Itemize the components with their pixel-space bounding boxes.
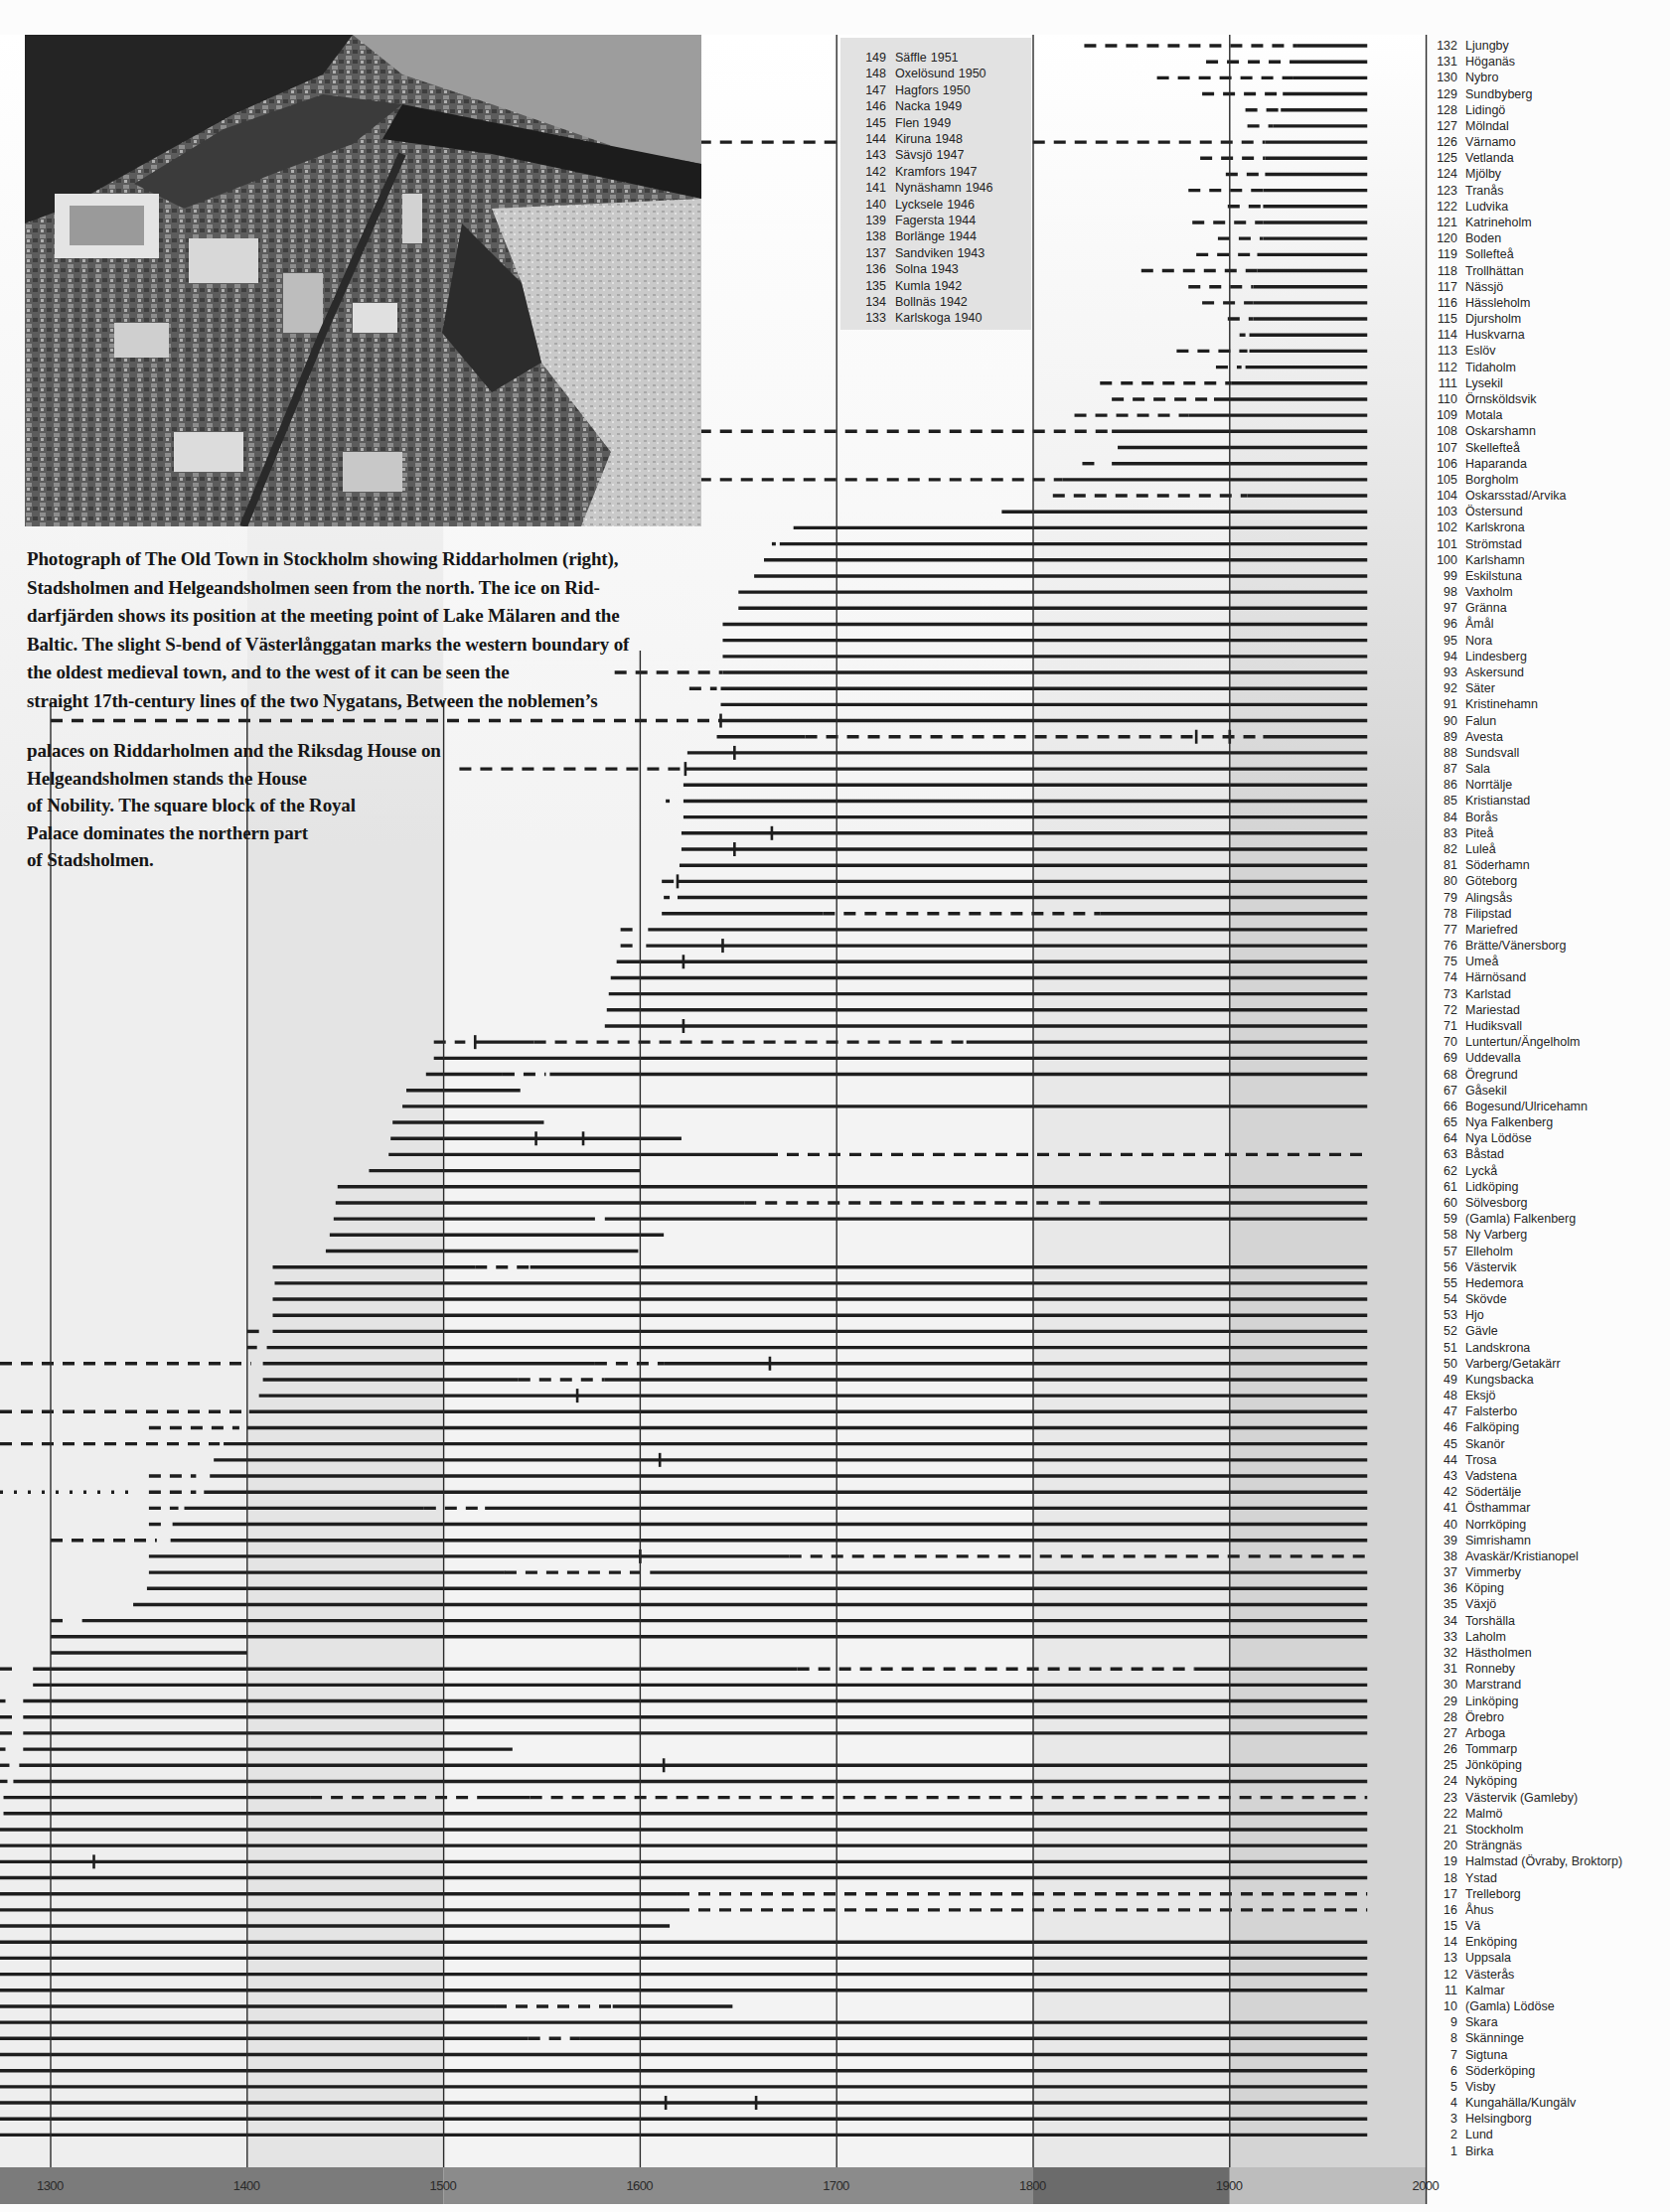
town-number: 12 (1431, 1967, 1457, 1983)
legend-town-name: Sandviken (895, 246, 953, 260)
town-number: 106 (1431, 456, 1457, 472)
town-name: Avesta (1465, 729, 1503, 745)
town-name: Eskilstuna (1465, 568, 1522, 584)
legend-town-number: 136 (840, 261, 886, 277)
town-name: Kalmar (1465, 1983, 1505, 1998)
town-number: 26 (1431, 1741, 1457, 1757)
town-number: 121 (1431, 215, 1457, 230)
town-name: Skänninge (1465, 2030, 1524, 2046)
town-number: 99 (1431, 568, 1457, 584)
town-name: Uddevalla (1465, 1050, 1521, 1066)
town-name: Vadstena (1465, 1468, 1517, 1484)
town-number: 21 (1431, 1822, 1457, 1838)
town-number: 107 (1431, 440, 1457, 456)
town-name: Enköping (1465, 1934, 1517, 1950)
legend-town-name-year: Kramfors1947 (895, 164, 978, 180)
town-number: 43 (1431, 1468, 1457, 1484)
town-number: 9 (1431, 2014, 1457, 2030)
town-number: 7 (1431, 2047, 1457, 2063)
town-number: 80 (1431, 873, 1457, 889)
town-name: Uppsala (1465, 1950, 1511, 1966)
town-name: Trollhättan (1465, 263, 1524, 279)
town-name: Västervik (1465, 1259, 1516, 1275)
town-name: Lysekil (1465, 375, 1503, 391)
town-name: Laholm (1465, 1629, 1506, 1645)
town-name: Östersund (1465, 504, 1523, 519)
x-axis-tick-label: 1700 (823, 2178, 849, 2194)
town-number: 96 (1431, 616, 1457, 632)
legend-town-year: 1948 (935, 132, 963, 146)
town-name: Bogesund/Ulricehamn (1465, 1099, 1588, 1114)
caption-line: darfjärden shows its position at the mee… (27, 602, 629, 631)
town-name: Haparanda (1465, 456, 1527, 472)
town-number: 79 (1431, 890, 1457, 906)
caption-line: Palace dominates the northern part (27, 819, 441, 847)
legend-town-year: 1943 (957, 246, 985, 260)
town-name: Sundbyberg (1465, 86, 1532, 102)
town-number: 51 (1431, 1340, 1457, 1356)
town-number: 100 (1431, 552, 1457, 568)
town-name: Eslöv (1465, 343, 1496, 359)
town-name: Sollefteå (1465, 246, 1514, 262)
town-number: 126 (1431, 134, 1457, 150)
legend-town-name-year: Solna1943 (895, 261, 959, 277)
town-number: 22 (1431, 1806, 1457, 1822)
x-axis-band (0, 2167, 1427, 2204)
town-name: Skövde (1465, 1291, 1507, 1307)
town-number: 14 (1431, 1934, 1457, 1950)
legend-town-name: Lycksele (895, 198, 943, 212)
recent-towns-legend-box: 149Säffle1951148Oxelösund1950147Hagfors1… (840, 38, 1031, 330)
town-name: Visby (1465, 2079, 1495, 2095)
legend-town-year: 1943 (931, 262, 959, 276)
caption-line: Baltic. The slight S-bend of Västerlångg… (27, 631, 629, 660)
town-number: 127 (1431, 118, 1457, 134)
town-name: Kungahälla/Kungälv (1465, 2095, 1576, 2111)
legend-town-year: 1949 (934, 99, 962, 113)
caption-line: the oldest medieval town, and to the wes… (27, 659, 629, 687)
legend-town-number: 138 (840, 228, 886, 244)
town-number: 115 (1431, 311, 1457, 327)
town-number: 89 (1431, 729, 1457, 745)
legend-town-year: 1944 (949, 229, 977, 243)
town-name: Kungsbacka (1465, 1372, 1534, 1388)
town-name: Falköping (1465, 1419, 1519, 1435)
town-number: 65 (1431, 1114, 1457, 1130)
legend-item: 138Borlänge1944 (840, 228, 1031, 244)
town-number: 120 (1431, 230, 1457, 246)
town-name: Sigtuna (1465, 2047, 1507, 2063)
town-number: 85 (1431, 793, 1457, 809)
town-number: 87 (1431, 761, 1457, 777)
legend-item: 142Kramfors1947 (840, 164, 1031, 180)
town-name: Askersund (1465, 664, 1524, 680)
town-name: Katrineholm (1465, 215, 1532, 230)
caption-line: straight 17th-century lines of the two N… (27, 687, 629, 716)
legend-town-year: 1942 (940, 295, 968, 309)
town-number: 44 (1431, 1452, 1457, 1468)
town-number: 63 (1431, 1146, 1457, 1162)
legend-town-name: Oxelösund (895, 67, 955, 80)
legend-town-name: Fagersta (895, 214, 944, 227)
town-name: Köping (1465, 1580, 1504, 1596)
axis-band-segment (1230, 2167, 1427, 2204)
town-number: 48 (1431, 1388, 1457, 1403)
town-number: 1 (1431, 2143, 1457, 2159)
town-number: 29 (1431, 1694, 1457, 1709)
axis-band-segment (0, 2167, 444, 2204)
legend-item: 149Säffle1951 (840, 50, 1031, 66)
town-number: 15 (1431, 1918, 1457, 1934)
town-number: 3 (1431, 2111, 1457, 2127)
town-name: Östhammar (1465, 1500, 1530, 1516)
town-number: 18 (1431, 1870, 1457, 1886)
town-number: 116 (1431, 295, 1457, 311)
town-name: Piteå (1465, 825, 1494, 841)
legend-town-year: 1944 (948, 214, 976, 227)
town-number: 68 (1431, 1067, 1457, 1083)
legend-town-name: Solna (895, 262, 927, 276)
town-name: Birka (1465, 2143, 1493, 2159)
legend-town-name-year: Hagfors1950 (895, 82, 971, 98)
town-number: 19 (1431, 1853, 1457, 1869)
town-name: (Gamla) Falkenberg (1465, 1211, 1576, 1227)
legend-item: 133Karlskoga1940 (840, 310, 1031, 326)
town-number: 55 (1431, 1275, 1457, 1291)
town-name: Marstrand (1465, 1677, 1521, 1693)
